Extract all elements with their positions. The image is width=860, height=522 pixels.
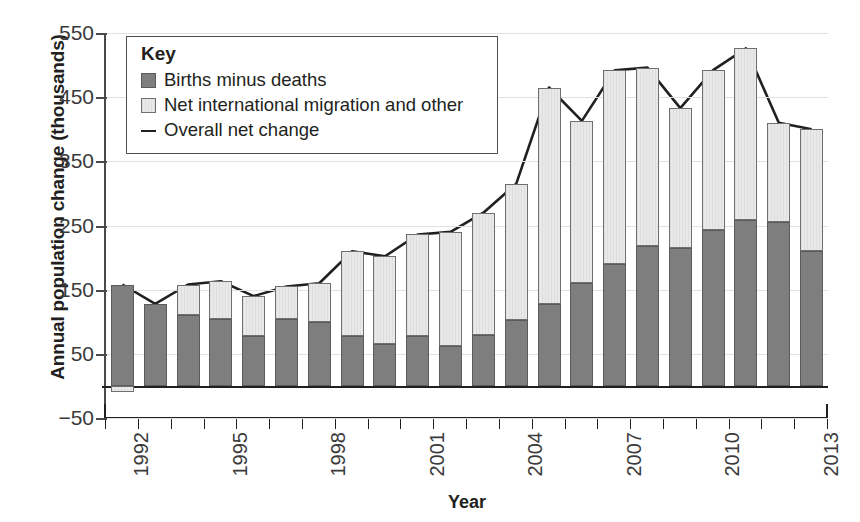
bar-segment-net-international-migration — [767, 123, 790, 222]
x-axis-title: Year — [106, 492, 828, 513]
x-axis-tick-mark — [597, 419, 598, 429]
bar-segment-net-international-migration — [538, 88, 561, 304]
y-axis-tick-mark — [96, 97, 107, 99]
bar-segment-net-international-migration — [111, 386, 134, 392]
bar-segment-births-minus-deaths — [702, 230, 725, 386]
bar-segment-net-international-migration — [242, 296, 265, 336]
bar-segment-births-minus-deaths — [406, 336, 429, 386]
bar-segment-net-international-migration — [472, 213, 495, 335]
bar-segment-net-international-migration — [702, 70, 725, 230]
filled-square-dark-icon — [141, 73, 156, 88]
legend-item-label: Overall net change — [164, 121, 319, 140]
bar-segment-net-international-migration — [603, 70, 626, 264]
legend-item-births-minus-deaths: Births minus deaths — [141, 68, 497, 93]
x-axis-tick-mark — [269, 419, 270, 429]
bar-segment-births-minus-deaths — [275, 319, 298, 386]
x-axis-tick-label: 2001 — [427, 432, 447, 477]
y-axis-tick-label: 250 — [42, 215, 94, 236]
x-axis-tick-label: 2007 — [624, 432, 644, 477]
y-axis-tick-mark — [96, 161, 107, 163]
bar-2011 — [734, 33, 757, 418]
y-axis-tick-label: 50 — [42, 343, 94, 364]
bar-segment-net-international-migration — [636, 68, 659, 246]
bar-segment-net-international-migration — [341, 251, 364, 336]
bar-segment-net-international-migration — [373, 256, 396, 344]
gridline — [106, 418, 828, 419]
x-axis-tick-mark — [335, 419, 336, 429]
bar-2004 — [505, 33, 528, 418]
chart-legend: Key Births minus deaths Net internationa… — [126, 36, 498, 154]
bar-segment-net-international-migration — [570, 121, 593, 283]
y-axis-tick-labels: 55045035025015050−50 — [38, 0, 94, 430]
legend-item-label: Births minus deaths — [164, 71, 326, 90]
y-axis-tick-mark — [96, 290, 107, 292]
bar-2007 — [603, 33, 626, 418]
bar-segment-births-minus-deaths — [472, 335, 495, 386]
x-axis-tick-mark — [236, 419, 237, 429]
x-axis-tick-mark — [171, 419, 172, 429]
bar-segment-births-minus-deaths — [734, 220, 757, 386]
bar-segment-net-international-migration — [669, 108, 692, 248]
bar-segment-births-minus-deaths — [570, 283, 593, 386]
y-axis-tick-mark — [96, 33, 107, 35]
bar-2012 — [767, 33, 790, 418]
bar-2008 — [636, 33, 659, 418]
bar-segment-births-minus-deaths — [341, 336, 364, 386]
population-change-chart: Annual population change (thousands) Yea… — [0, 0, 860, 522]
x-axis-tick-mark — [794, 419, 795, 429]
bar-segment-net-international-migration — [406, 234, 429, 335]
bar-segment-births-minus-deaths — [767, 222, 790, 386]
bar-segment-births-minus-deaths — [242, 336, 265, 386]
legend-item-label: Net international migration and other — [164, 96, 463, 115]
bar-segment-net-international-migration — [800, 129, 823, 251]
bar-segment-births-minus-deaths — [373, 344, 396, 386]
x-axis-tick-mark — [565, 419, 566, 429]
y-axis-tick-mark — [96, 226, 107, 228]
x-axis-tick-mark — [761, 419, 762, 429]
legend-item-net-international-migration: Net international migration and other — [141, 93, 497, 118]
x-axis-tick-mark — [204, 419, 205, 429]
bar-segment-net-international-migration — [308, 283, 331, 322]
y-axis-tick-mark — [96, 354, 107, 356]
x-axis-tick-label: 2013 — [821, 432, 841, 477]
line-segment-icon — [141, 123, 156, 138]
x-axis-tick-mark — [138, 419, 139, 429]
bar-segment-net-international-migration — [439, 232, 462, 346]
bar-segment-births-minus-deaths — [505, 320, 528, 385]
filled-square-light-icon — [141, 98, 156, 113]
bar-segment-births-minus-deaths — [144, 304, 167, 386]
x-axis-tick-label: 2010 — [722, 432, 742, 477]
x-axis-tick-mark — [532, 419, 533, 429]
x-axis-tick-mark — [696, 419, 697, 429]
bar-segment-births-minus-deaths — [538, 304, 561, 386]
bar-segment-net-international-migration — [209, 281, 232, 318]
bar-segment-births-minus-deaths — [669, 248, 692, 386]
bar-segment-births-minus-deaths — [209, 319, 232, 386]
x-axis-tick-mark — [499, 419, 500, 429]
y-axis-tick-label: 450 — [42, 86, 94, 107]
x-axis-tick-label: 1998 — [328, 432, 348, 477]
y-axis-tick-label: 550 — [42, 22, 94, 43]
x-axis-tick-label: 1995 — [230, 432, 250, 477]
x-axis-tick-mark — [400, 419, 401, 429]
bar-segment-births-minus-deaths — [603, 264, 626, 386]
x-axis-tick-mark — [302, 419, 303, 429]
bar-segment-net-international-migration — [275, 286, 298, 318]
bar-segment-births-minus-deaths — [636, 246, 659, 386]
bar-2006 — [570, 33, 593, 418]
bar-segment-births-minus-deaths — [308, 322, 331, 386]
y-axis-tick-label: 150 — [42, 279, 94, 300]
bar-2013 — [800, 33, 823, 418]
bar-segment-net-international-migration — [177, 285, 200, 316]
y-axis-tick-label: 350 — [42, 150, 94, 171]
bar-2010 — [702, 33, 725, 418]
bar-segment-net-international-migration — [734, 48, 757, 220]
x-axis-tick-mark — [433, 419, 434, 429]
bar-segment-births-minus-deaths — [800, 251, 823, 386]
legend-item-overall-net-change: Overall net change — [141, 118, 497, 143]
x-axis-tick-mark — [105, 419, 106, 429]
bar-2005 — [538, 33, 561, 418]
x-axis-tick-label: 2004 — [525, 432, 545, 477]
bar-segment-births-minus-deaths — [439, 346, 462, 386]
x-axis-tick-mark — [630, 419, 631, 429]
